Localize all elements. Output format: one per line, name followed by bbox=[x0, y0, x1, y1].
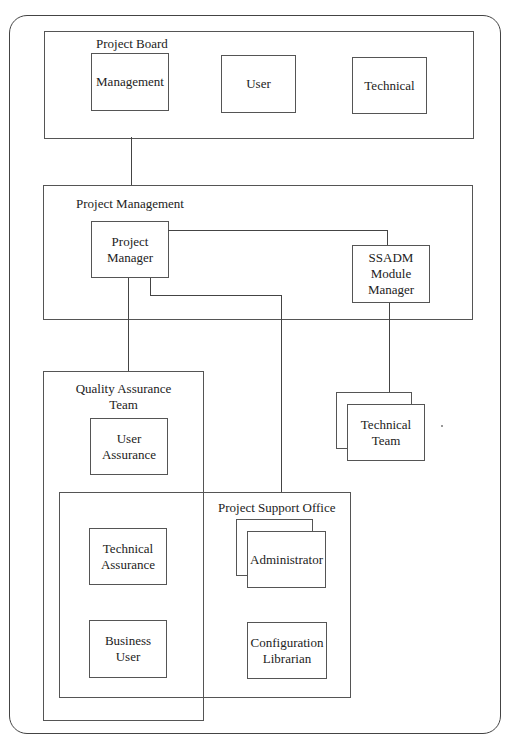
technical-team-box[interactable]: Technical Team bbox=[347, 404, 425, 461]
quality-assurance-label: Quality Assurance Team bbox=[43, 381, 204, 413]
administrator-box[interactable]: Administrator bbox=[247, 531, 326, 588]
project-board-label: Project Board bbox=[96, 36, 168, 52]
connector-ssadm-techteam bbox=[389, 303, 390, 393]
board-user-box[interactable]: User bbox=[221, 55, 296, 113]
connector-pm-qa bbox=[128, 278, 129, 372]
connector-pm-pso-v1 bbox=[150, 278, 151, 295]
business-user-box[interactable]: Business User bbox=[89, 620, 167, 678]
technical-assurance-box[interactable]: Technical Assurance bbox=[89, 528, 167, 585]
board-technical-box[interactable]: Technical bbox=[352, 57, 427, 114]
connector-pm-ssadm-h bbox=[168, 230, 388, 231]
connector-pm-ssadm-v bbox=[387, 230, 388, 245]
ssadm-module-manager-box[interactable]: SSADM Module Manager bbox=[352, 245, 430, 303]
configuration-librarian-box[interactable]: Configuration Librarian bbox=[247, 622, 327, 679]
project-management-label: Project Management bbox=[76, 196, 184, 212]
connector-pm-pso-v2 bbox=[281, 295, 282, 493]
project-support-office-label: Project Support Office bbox=[218, 500, 335, 516]
connector-board-management bbox=[131, 137, 132, 186]
board-management-box[interactable]: Management bbox=[91, 53, 169, 111]
project-manager-box[interactable]: Project Manager bbox=[91, 221, 169, 278]
connector-pm-pso-h bbox=[150, 295, 282, 296]
user-assurance-box[interactable]: User Assurance bbox=[90, 418, 168, 475]
scan-speck bbox=[441, 425, 443, 427]
